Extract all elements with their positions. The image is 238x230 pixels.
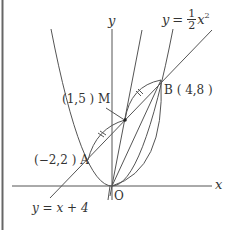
coef-denominator: 2 <box>188 20 195 31</box>
segment-o-b <box>112 80 161 186</box>
parabola-lhs: y <box>162 13 169 26</box>
parabola-equation-label: y = 1 2 x 2 <box>162 8 210 31</box>
point-m-dot <box>123 118 127 122</box>
parabola-exp: 2 <box>205 12 210 20</box>
point-a-label: (−2,2 ) A <box>34 154 89 166</box>
point-m-label: (1,5 ) M <box>62 93 110 105</box>
m-leader-line <box>106 108 123 119</box>
parabola-eq: = <box>172 13 183 26</box>
y-axis-label: y <box>108 14 115 27</box>
origin-label: O <box>114 190 124 202</box>
o-mark <box>108 186 110 200</box>
parabola-var: x <box>197 13 204 26</box>
line-equation-label: y = x + 4 <box>32 202 89 214</box>
line-y-x-plus-4 <box>50 30 212 198</box>
parabola-coefficient: 1 2 <box>187 8 196 31</box>
diagram: y x O y = 1 2 x 2 y = x + 4 (−2,2 ) A B … <box>0 0 238 230</box>
point-b-label: B ( 4,8 ) <box>164 84 213 96</box>
x-axis-label: x <box>215 178 222 191</box>
